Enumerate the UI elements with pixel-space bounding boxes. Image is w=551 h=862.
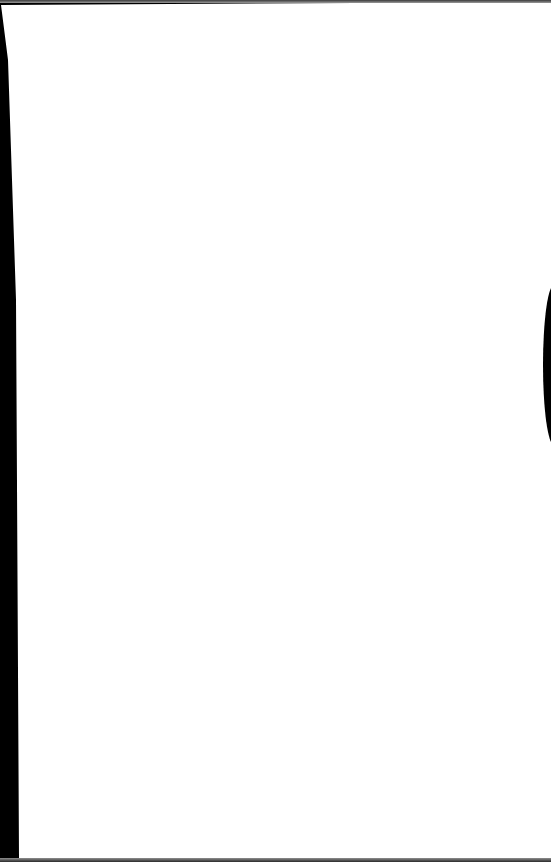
blank-page	[0, 0, 551, 862]
scan-bottom-edge	[0, 858, 551, 862]
page-content-area	[30, 20, 530, 840]
scanned-document	[0, 0, 551, 862]
scan-top-edge	[0, 0, 551, 3]
